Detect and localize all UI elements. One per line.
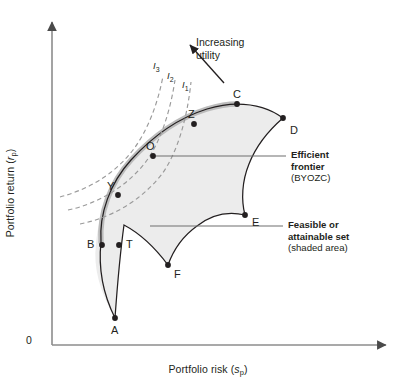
point-Y-dot [115,192,121,198]
point-label-B: B [87,238,94,250]
efficient-frontier-callout-line1: Efficient [291,149,330,161]
efficient-frontier-callout-line2: frontier [291,161,330,173]
point-D-dot [280,115,286,121]
y-axis-label: Portfolio return (rp) [4,123,18,263]
point-label-A: A [111,324,118,336]
feasible-set-callout-line2: attainable set [288,231,349,243]
feasible-set-callout-note: (shaded area) [288,242,349,254]
point-A-dot [112,315,118,321]
point-E-dot [242,212,248,218]
point-label-D: D [290,124,298,136]
increasing-utility-line2: utility [196,49,244,62]
efficient-frontier-figure: Portfolio return (rp) Portfolio risk (sp… [0,0,413,392]
point-T-dot [116,242,122,248]
point-Z-dot [191,121,197,127]
point-label-E: E [252,216,259,228]
efficient-frontier-callout-code: (BYOZC) [291,172,330,184]
point-F-dot [165,262,171,268]
indifference-label-I2: I2 [167,70,174,83]
point-C-dot [234,101,240,107]
point-O-dot [150,153,156,159]
point-label-Z: Z [188,108,195,120]
point-label-T: T [126,238,133,250]
increasing-utility-label: Increasing utility [196,36,244,61]
feasible-set-callout-line1: Feasible or [288,219,349,231]
point-label-C: C [233,88,241,100]
efficient-frontier-callout: Efficient frontier (BYOZC) [291,149,330,184]
feasible-set-callout: Feasible or attainable set (shaded area) [288,219,349,254]
point-label-O: O [146,140,155,152]
origin-label: 0 [26,334,32,346]
feasible-set-region [95,105,283,318]
indifference-label-I3: I3 [153,60,160,73]
x-axis-label: Portfolio risk (sp) [128,363,288,377]
indifference-label-I1: I1 [182,79,189,92]
increasing-utility-line1: Increasing [196,36,244,49]
point-label-Y: Y [107,180,114,192]
point-label-F: F [174,268,181,280]
point-B-dot [99,242,105,248]
